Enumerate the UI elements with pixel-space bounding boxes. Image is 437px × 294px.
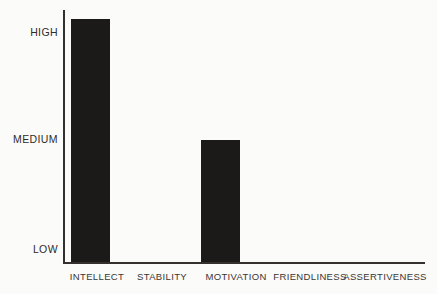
x-axis-label-assertiveness: ASSERTIVENESS [343, 271, 427, 283]
x-axis-label-friendliness: FRIENDLINESS [273, 271, 346, 283]
x-axis-label-motivation: MOTIVATION [205, 271, 266, 283]
y-axis-line [63, 10, 65, 264]
y-axis-tick-medium: MEDIUM [13, 134, 58, 145]
x-axis-label-stability: STABILITY [137, 271, 187, 283]
plot-area [0, 0, 437, 294]
bar-chart: HIGH MEDIUM LOW INTELLECT STABILITY MOTI… [0, 0, 437, 294]
bar-motivation [201, 140, 240, 262]
x-axis-label-intellect: INTELLECT [70, 271, 124, 283]
y-axis-tick-low: LOW [33, 244, 58, 255]
bar-intellect [71, 19, 110, 262]
x-axis-line [63, 262, 425, 264]
y-axis-tick-high: HIGH [30, 27, 58, 38]
